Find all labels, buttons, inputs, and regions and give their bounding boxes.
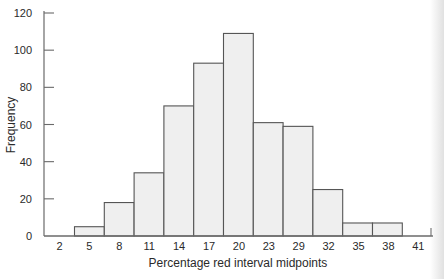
- y-tick-label: 120: [14, 7, 32, 19]
- y-tick-label: 0: [26, 230, 32, 242]
- histogram-bar: [104, 203, 134, 236]
- x-tick-label: 5: [86, 240, 92, 252]
- bars: [75, 33, 403, 236]
- x-tick-label: 11: [143, 240, 154, 252]
- y-axis-label: Frequency: [4, 97, 18, 154]
- histogram-bar: [373, 223, 403, 236]
- y-tick-label: 80: [20, 81, 32, 93]
- histogram-bar: [164, 106, 194, 236]
- x-tick-label: 20: [233, 240, 245, 252]
- x-tick-label: 32: [322, 240, 334, 252]
- histogram-bar: [134, 173, 164, 236]
- y-tick-label: 60: [20, 119, 32, 131]
- y-axis: 020406080100120: [14, 7, 54, 242]
- y-tick-label: 40: [20, 156, 32, 168]
- histogram-bar: [253, 123, 283, 236]
- x-tick-label: 29: [293, 240, 305, 252]
- histogram-bar: [194, 63, 224, 236]
- x-tick-label: 41: [412, 240, 424, 252]
- x-tick-label: 2: [56, 240, 62, 252]
- histogram-bar: [283, 126, 313, 236]
- histogram-chart: 020406080100120 25811141720232932353841 …: [0, 0, 444, 279]
- x-tick-label: 17: [203, 240, 215, 252]
- x-axis-label: Percentage red interval midpoints: [149, 256, 328, 270]
- y-tick-label: 100: [14, 44, 32, 56]
- x-tick-label: 23: [263, 240, 275, 252]
- x-tick-label: 14: [173, 240, 185, 252]
- x-tick-label: 38: [382, 240, 394, 252]
- x-tick-label: 8: [116, 240, 122, 252]
- histogram-bar: [224, 33, 254, 236]
- histogram-bar: [75, 227, 105, 236]
- x-tick-label: 35: [352, 240, 364, 252]
- y-tick-label: 20: [20, 193, 32, 205]
- histogram-bar: [313, 190, 343, 236]
- histogram-bar: [343, 223, 373, 236]
